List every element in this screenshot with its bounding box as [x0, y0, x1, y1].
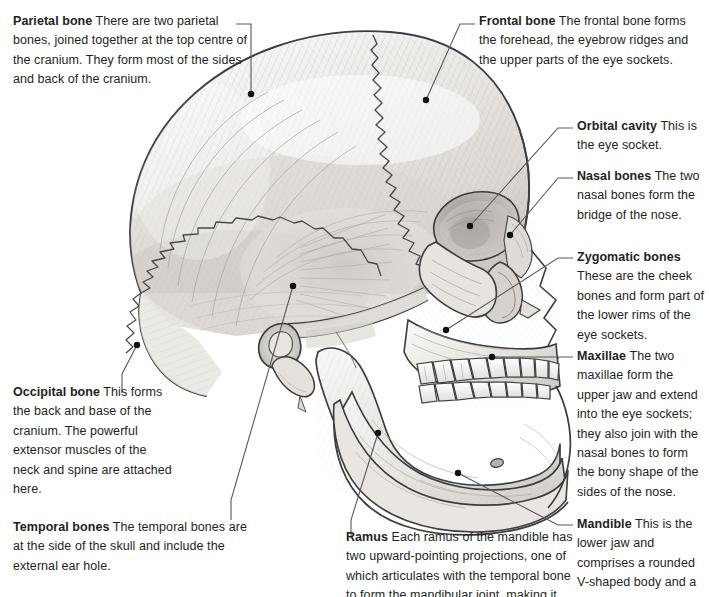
- label-term-ramus: Ramus: [346, 530, 388, 544]
- label-term-frontal: Frontal bone: [479, 14, 555, 28]
- label-frontal-bone: Frontal bone The frontal bone forms the …: [479, 12, 705, 70]
- label-nasal-bones: Nasal bones The two nasal bones form the…: [577, 167, 707, 225]
- label-temporal-bones: Temporal bones The temporal bones are at…: [13, 518, 253, 576]
- mental-foramen: [490, 458, 504, 469]
- label-maxillae: Maxillae The two maxillae form the upper…: [577, 347, 709, 502]
- mastoid-process: [272, 357, 314, 397]
- label-text-occipital: This forms the back and base of the cran…: [13, 385, 172, 496]
- label-zygomatic-bones: Zygomatic bones These are the cheek bone…: [577, 248, 707, 345]
- label-term-nasal: Nasal bones: [577, 169, 651, 183]
- label-term-orbital: Orbital cavity: [577, 119, 657, 133]
- label-text-maxillae: The two maxillae form the upper jaw and …: [577, 349, 699, 499]
- label-term-parietal: Parietal bone: [13, 14, 92, 28]
- label-term-zygomatic: Zygomatic bones: [577, 250, 681, 264]
- label-ramus: Ramus Each ramus of the mandible has two…: [346, 528, 578, 597]
- label-mandible: Mandible This is the lower jaw and compr…: [577, 515, 709, 597]
- label-text-zygomatic: These are the cheek bones and form part …: [577, 269, 704, 341]
- label-term-temporal: Temporal bones: [13, 520, 110, 534]
- label-parietal-bone: Parietal bone There are two parietal bon…: [13, 12, 249, 90]
- label-term-occipital: Occipital bone: [13, 385, 100, 399]
- label-orbital-cavity: Orbital cavity This is the eye socket.: [577, 117, 707, 156]
- label-occipital-bone: Occipital bone This forms the back and b…: [13, 383, 173, 499]
- label-term-mandible: Mandible: [577, 517, 632, 531]
- label-term-maxillae: Maxillae: [577, 349, 626, 363]
- skull-diagram-page: Parietal bone There are two parietal bon…: [0, 0, 709, 597]
